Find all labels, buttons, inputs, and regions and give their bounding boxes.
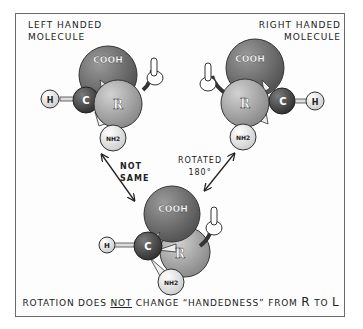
svg-text:COOH: COOH bbox=[158, 204, 187, 214]
svg-text:COOH: COOH bbox=[235, 54, 264, 64]
left-handed-title: Left Handed Molecule bbox=[28, 19, 102, 43]
svg-text:C: C bbox=[279, 96, 286, 107]
caption-part1: Rotation does bbox=[22, 298, 110, 308]
pointing-hand-icon bbox=[147, 58, 163, 85]
svg-text:C: C bbox=[144, 241, 151, 252]
right-handed-molecule: COOH R C H NH2 bbox=[200, 39, 324, 150]
not-same-label: Not Same bbox=[120, 161, 149, 185]
svg-text:R: R bbox=[113, 98, 124, 112]
right-title-line1: Right Handed bbox=[259, 19, 341, 31]
svg-text:H: H bbox=[47, 96, 54, 105]
right-handed-title: Right Handed Molecule bbox=[259, 19, 341, 43]
not-same-line1: Not bbox=[120, 161, 149, 173]
caption: Rotation does not change “Handedness” fr… bbox=[20, 296, 342, 309]
svg-text:C: C bbox=[82, 95, 89, 106]
svg-text:COOH: COOH bbox=[93, 55, 122, 65]
rotated-molecule: COOH R C H NH2 bbox=[99, 186, 222, 295]
svg-text:H: H bbox=[312, 98, 319, 107]
caption-part2: change “Handedness” from bbox=[132, 298, 301, 308]
caption-emphasis: not bbox=[110, 298, 132, 308]
rotated-label: Rotated 180° bbox=[178, 155, 222, 179]
svg-text:R: R bbox=[175, 247, 186, 261]
left-title-line1: Left Handed bbox=[28, 19, 102, 31]
rotated-line1: Rotated bbox=[178, 155, 222, 167]
rotated-line2: 180° bbox=[178, 167, 222, 179]
left-handed-molecule: COOH R C H NH2 bbox=[41, 46, 163, 151]
caption-l: L bbox=[332, 295, 340, 309]
svg-text:NH2: NH2 bbox=[164, 279, 178, 286]
svg-text:H: H bbox=[104, 242, 110, 250]
not-same-line2: Same bbox=[120, 173, 149, 185]
right-title-line2: Molecule bbox=[259, 31, 341, 43]
left-title-line2: Molecule bbox=[28, 31, 102, 43]
svg-text:NH2: NH2 bbox=[106, 135, 120, 142]
pointing-hand-icon bbox=[206, 207, 222, 235]
caption-to: to bbox=[310, 298, 332, 308]
svg-text:NH2: NH2 bbox=[236, 134, 250, 141]
svg-text:R: R bbox=[240, 97, 251, 111]
